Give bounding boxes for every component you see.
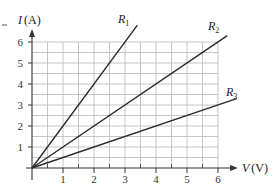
x-axis-label: V(V) [242, 161, 268, 175]
y-tick-label: 5 [18, 57, 24, 69]
y-tick-label: 1 [18, 141, 24, 153]
y-tick-label: 6 [18, 36, 24, 48]
series-label-r2: R2 [207, 19, 219, 35]
series-line-r2 [32, 36, 227, 168]
labels: I(A) V(V) 123456123456R1R2R3 [17, 12, 268, 185]
y-axis-label: I(A) [17, 13, 41, 27]
y-tick-label: 4 [18, 78, 24, 90]
x-tick-label: 3 [122, 173, 128, 185]
x-tick-label: 2 [91, 173, 97, 185]
iv-chart: I(A) V(V) 123456123456R1R2R3 [0, 0, 280, 192]
y-tick-label: 2 [18, 120, 24, 132]
x-tick-label: 4 [153, 173, 159, 185]
y-tick-label: 3 [18, 99, 24, 111]
x-tick-label: 6 [215, 173, 221, 185]
x-tick-label: 5 [184, 173, 190, 185]
series-label-r1: R1 [117, 12, 129, 28]
series-label-r3: R3 [225, 85, 237, 101]
y-axis-arrow-icon [29, 29, 35, 37]
x-axis-arrow-icon [230, 165, 238, 171]
x-tick-label: 1 [60, 173, 66, 185]
